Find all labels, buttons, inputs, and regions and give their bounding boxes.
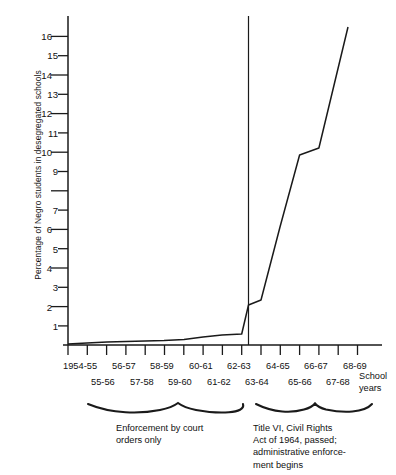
annotation-court-orders-line-2: orders only — [116, 434, 246, 446]
brace-court-orders — [88, 403, 243, 412]
x-tick-label-56-57: 56-57 — [112, 361, 136, 371]
x-tick-label-65-66: 65-66 — [288, 377, 312, 387]
x-tick-label-58-59: 58-59 — [150, 361, 174, 371]
x-tick-label-57-58: 57-58 — [130, 377, 154, 387]
annotation-court-orders: Enforcement by court orders only — [116, 422, 246, 446]
x-tick-label-66-67: 66-67 — [304, 361, 328, 371]
annotation-title-vi-line-1: Title VI, Civil Rights — [253, 422, 375, 434]
x-tick-label-68-69: 68-69 — [343, 361, 367, 371]
x-tick-label-1954-55: 1954-55 — [63, 361, 97, 371]
x-tick-label-60-61: 60-61 — [189, 361, 213, 371]
x-tick-label-59-60: 59-60 — [168, 377, 192, 387]
x-tick-label-63-64: 63-64 — [245, 377, 269, 387]
brace-title-vi — [256, 404, 372, 412]
x-axis-title: School years — [359, 371, 395, 394]
annotation-title-vi: Title VI, Civil Rights Act of 1964, pass… — [253, 422, 375, 471]
annotation-title-vi-line-3: administrative enforce- — [253, 446, 375, 458]
x-tick-label-55-56: 55-56 — [91, 377, 115, 387]
x-tick-label-61-62: 61-62 — [207, 377, 231, 387]
x-tick-label-67-68: 67-68 — [326, 377, 350, 387]
annotation-title-vi-line-4: ment begins — [253, 459, 375, 471]
chart-canvas — [0, 0, 396, 475]
annotation-title-vi-line-2: Act of 1964, passed; — [253, 434, 375, 446]
x-axis-ticks — [68, 345, 358, 355]
x-tick-label-62-63: 62-63 — [227, 361, 251, 371]
chart-root: Percentage of Negro students in desegreg… — [0, 0, 396, 475]
annotation-court-orders-line-1: Enforcement by court — [116, 422, 246, 434]
y-axis-ticks — [51, 36, 68, 326]
x-tick-label-64-65: 64-65 — [266, 361, 290, 371]
data-line — [68, 27, 348, 344]
